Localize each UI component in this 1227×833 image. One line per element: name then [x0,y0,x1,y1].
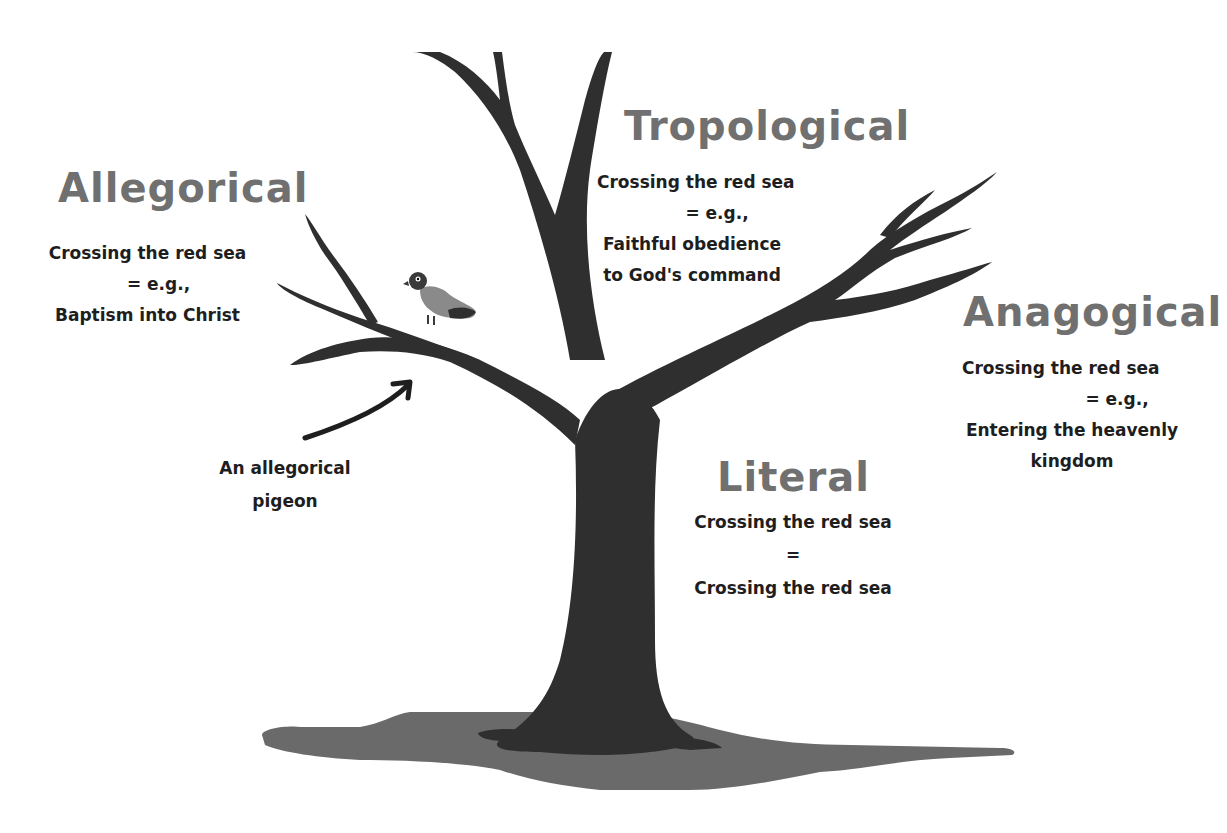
allegorical-title: Allegorical [58,165,308,211]
tropological-line4: to God's command [597,260,787,291]
anagogical-line1: Crossing the red sea [962,353,1182,384]
curved-arrow-icon [305,382,410,438]
annotation-line1: An allegorical [205,452,365,485]
literal-title: Literal [717,454,870,500]
tropological-line1: Crossing the red sea [597,167,787,198]
anagogical-line2: = e.g., [962,384,1182,415]
pigeon-icon [403,272,476,325]
allegorical-line2: = e.g., [40,269,255,300]
anagogical-description: Crossing the red sea = e.g., Entering th… [962,353,1182,477]
allegorical-description: Crossing the red sea = e.g., Baptism int… [40,238,255,331]
annotation-line2: pigeon [205,485,365,518]
tropological-description: Crossing the red sea = e.g., Faithful ob… [597,167,787,291]
literal-line1: Crossing the red sea [684,506,902,539]
pigeon-annotation: An allegorical pigeon [205,452,365,518]
tropological-line3: Faithful obedience [597,229,787,260]
anagogical-line3: Entering the heavenly [962,415,1182,446]
allegorical-line1: Crossing the red sea [40,238,255,269]
tropological-line2: = e.g., [597,198,787,229]
anagogical-line4: kingdom [962,446,1182,477]
literal-line3: Crossing the red sea [684,572,902,605]
literal-line2: = [684,539,902,572]
anagogical-title: Anagogical [963,289,1222,335]
allegorical-line3: Baptism into Christ [40,300,255,331]
literal-description: Crossing the red sea = Crossing the red … [684,506,902,605]
tropological-title: Tropological [624,103,910,149]
